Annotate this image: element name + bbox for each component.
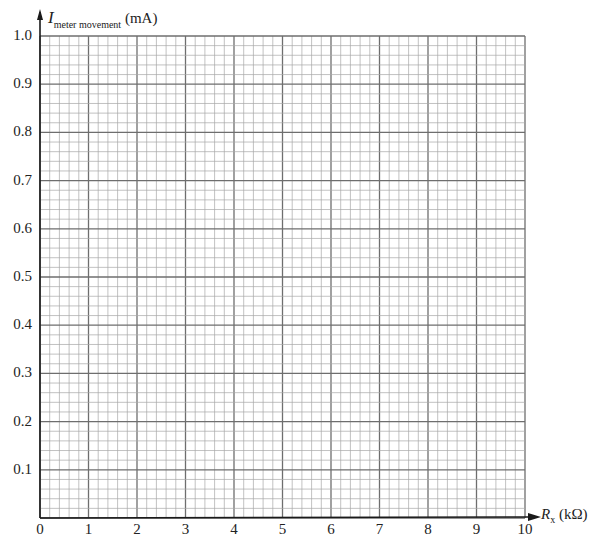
y-tick-label: 0.2 [2,414,32,429]
x-tick-label: 1 [74,522,104,537]
x-axis [40,517,535,518]
y-tick-label: 1.0 [2,28,32,43]
y-tick-label: 0.7 [2,173,32,188]
x-tick-label: 10 [510,522,540,537]
x-tick-label: 9 [462,522,492,537]
x-tick-label: 0 [25,522,55,537]
y-axis-label: Imeter movement (mA) [48,8,157,30]
x-tick-label: 7 [365,522,395,537]
x-axis-label: Rx (kΩ) [541,506,588,525]
y-tick-label: 0.5 [2,269,32,284]
y-tick-label: 0.9 [2,76,32,91]
y-tick-label: 0.3 [2,365,32,380]
x-axis-arrow-icon [528,513,541,521]
y-tick-label: 0.4 [2,317,32,332]
x-tick-label: 3 [171,522,201,537]
y-axis-arrow-icon [37,9,43,20]
x-tick-label: 2 [122,522,152,537]
x-tick-label: 4 [219,522,249,537]
graph-paper-grid [0,0,615,545]
x-tick-label: 5 [268,522,298,537]
x-tick-label: 6 [316,522,346,537]
x-tick-label: 8 [413,522,443,537]
y-tick-label: 0.6 [2,221,32,236]
y-tick-label: 0.8 [2,124,32,139]
y-tick-label: 0.1 [2,462,32,477]
